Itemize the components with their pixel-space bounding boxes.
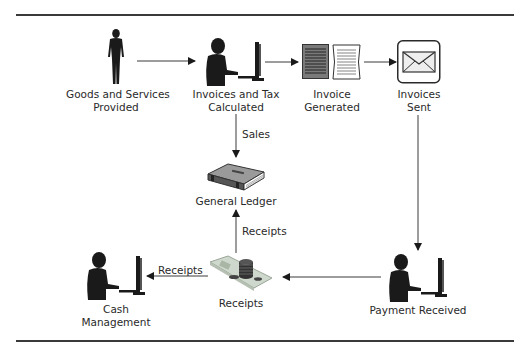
node-label-invoices-tax: Invoices and Tax Calculated xyxy=(186,88,286,114)
node-label-cash-management: Cash Management xyxy=(66,303,166,329)
node-label-payment-received: Payment Received xyxy=(368,304,468,317)
standing-person-icon xyxy=(104,29,128,85)
node-label-invoices-sent: Invoices Sent xyxy=(379,88,459,114)
documents-icon xyxy=(302,44,362,80)
person-at-computer-icon xyxy=(205,38,265,86)
edge-label-receipts-to-cash: Receipts xyxy=(158,264,203,276)
envelope-icon xyxy=(397,40,441,84)
ledger-book-icon xyxy=(206,162,266,192)
edge-label-sales: Sales xyxy=(242,128,270,140)
money-stack-icon xyxy=(208,254,274,294)
person-at-computer-icon xyxy=(86,252,146,300)
edge-label-receipts-to-ledger: Receipts xyxy=(242,225,287,237)
node-label-receipts: Receipts xyxy=(206,297,276,310)
node-label-goods: Goods and Services Provided xyxy=(66,88,166,114)
person-at-computer-icon xyxy=(388,254,448,302)
node-label-general-ledger: General Ledger xyxy=(186,195,286,208)
node-label-invoice-generated: Invoice Generated xyxy=(292,88,372,114)
